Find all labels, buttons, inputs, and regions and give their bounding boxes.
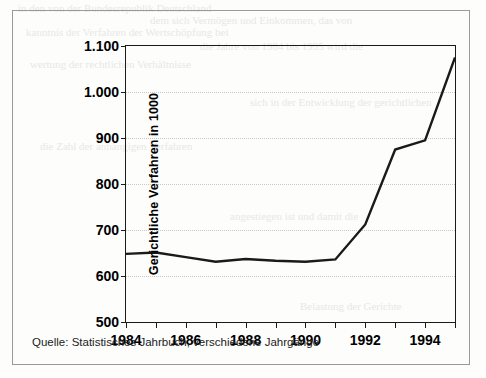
plot-area: 5006007008009001.0001.100 19841986198819… xyxy=(125,45,456,323)
x-tick-mark xyxy=(126,322,127,328)
x-tick-mark xyxy=(276,322,277,328)
x-tick-mark xyxy=(216,322,217,328)
source-note: Quelle: Statistisches Jahrbuch, verschie… xyxy=(32,336,319,348)
x-tick-mark xyxy=(305,322,306,328)
x-tick-mark xyxy=(425,322,426,328)
x-tick-mark xyxy=(365,322,366,328)
x-tick-mark xyxy=(395,322,396,328)
y-tick-label: 800 xyxy=(96,176,119,192)
y-tick-label: 600 xyxy=(96,268,119,284)
data-line-series xyxy=(126,46,455,322)
x-tick-mark xyxy=(156,322,157,328)
y-tick-label: 900 xyxy=(96,130,119,146)
x-tick-label: 1994 xyxy=(410,332,441,348)
x-tick-mark xyxy=(455,322,456,328)
chart-outer-border: 5006007008009001.0001.100 19841986198819… xyxy=(12,10,470,365)
x-tick-mark xyxy=(186,322,187,328)
y-tick-label: 700 xyxy=(96,222,119,238)
line-path xyxy=(126,58,455,262)
y-axis-title: Gerichtliche Verfahren in 1000 xyxy=(147,93,161,275)
figure-canvas: in den von der Bundesrepublik Deutschlan… xyxy=(0,0,486,378)
x-tick-mark xyxy=(246,322,247,328)
x-tick-label: 1992 xyxy=(350,332,381,348)
y-tick-label: 1.000 xyxy=(84,84,119,100)
x-tick-mark xyxy=(335,322,336,328)
y-tick-label: 1.100 xyxy=(84,38,119,54)
y-tick-label: 500 xyxy=(96,314,119,330)
